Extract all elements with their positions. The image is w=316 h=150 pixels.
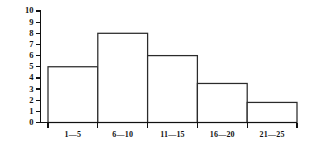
y-tick-label: 9 (29, 17, 33, 27)
y-tick-label: 8 (29, 28, 33, 38)
histogram-chart: 012345678910 1—56—1011—1516—2021—25 (0, 0, 316, 150)
y-tick-label: 6 (29, 50, 33, 60)
histogram-bar (197, 83, 247, 122)
y-tick-label: 2 (29, 95, 33, 105)
x-tick-label: 21—25 (260, 130, 285, 139)
x-tick-label: 16—20 (210, 130, 235, 139)
x-tick-label: 6—10 (112, 130, 133, 139)
y-tick-label: 0 (29, 117, 33, 127)
histogram-bar (98, 33, 148, 122)
histogram-svg: 012345678910 1—56—1011—1516—2021—25 (0, 0, 316, 150)
histogram-bar (247, 102, 297, 122)
y-tick-label: 1 (29, 106, 33, 116)
y-tick-label: 10 (25, 5, 34, 15)
histogram-bar (48, 67, 98, 123)
x-tick-label: 11—15 (160, 130, 185, 139)
histogram-bar (148, 56, 198, 123)
y-tick-label: 5 (29, 61, 33, 71)
y-tick-label: 3 (29, 84, 33, 94)
x-tick-label: 1—5 (65, 130, 82, 139)
